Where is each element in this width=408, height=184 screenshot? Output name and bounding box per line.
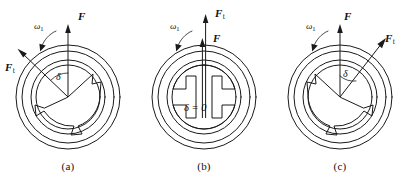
- panel-caption-b: (b): [136, 160, 272, 172]
- force-normal-label: F: [78, 11, 85, 22]
- force-tangential-label: Ft: [385, 33, 394, 44]
- panel-a-drawing: [0, 0, 136, 184]
- panel-b-drawing: [136, 0, 272, 184]
- force-tangential-label: Ft: [5, 62, 14, 73]
- force-tangential-arrow-line: [22, 53, 68, 97]
- diagram-panel-c: F Ft ω1 δ (c): [272, 0, 408, 184]
- rotor-hub-shape: [173, 65, 235, 129]
- angular-velocity-label: ω1: [34, 22, 44, 31]
- force-tangential-label: Ft: [215, 8, 224, 19]
- angle-delta-label: δ = 0: [184, 103, 206, 114]
- panel-caption-c: (c): [272, 160, 408, 172]
- omega-arc: [178, 31, 193, 47]
- angular-velocity-label: ω1: [170, 22, 180, 31]
- force-normal-label: F: [213, 33, 220, 44]
- force-normal-arrowhead: [337, 24, 343, 33]
- angle-delta-label: δ: [56, 72, 61, 82]
- force-normal-label: F: [344, 11, 351, 22]
- force-normal-arrowhead: [65, 24, 71, 33]
- angle-delta-label: δ: [343, 69, 348, 79]
- diagram-panel-b: Ft F ω1 δ = 0 (b): [136, 0, 272, 184]
- diagram-panel-a: F Ft ω1 δ (a): [0, 0, 136, 184]
- outer-ring-outline: [152, 45, 256, 149]
- inner-ring-outline: [167, 60, 241, 134]
- panel-c-drawing: [272, 0, 408, 184]
- angular-velocity-label: ω1: [306, 22, 316, 31]
- force-normal-arrowhead: [200, 38, 206, 47]
- force-tangential-arrowhead: [203, 14, 209, 23]
- omega-arc: [314, 31, 329, 47]
- omega-arc: [42, 31, 57, 47]
- figure-root: F Ft ω1 δ (a): [0, 0, 408, 184]
- panel-caption-a: (a): [0, 160, 136, 172]
